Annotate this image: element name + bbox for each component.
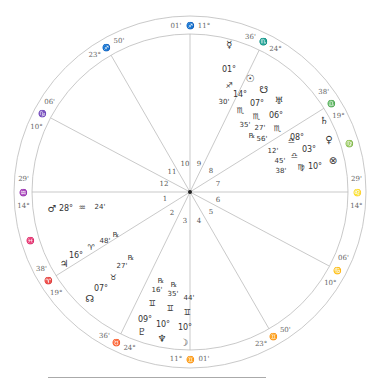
svg-text:♐: ♐ xyxy=(102,43,111,52)
svg-text:11°: 11° xyxy=(198,22,210,30)
uranus-icon: ♅ xyxy=(275,95,284,106)
south-node-icon: ☋ xyxy=(260,84,269,95)
planet-minute: 44' xyxy=(184,294,195,302)
svg-text:♒: ♒ xyxy=(19,188,28,197)
jupiter-icon: ♃ xyxy=(60,258,69,269)
cusp-label-house-6: 10°♋06' xyxy=(324,254,349,287)
retrograde-icon: ℞ xyxy=(158,277,164,285)
planet-minute: 35' xyxy=(240,121,251,129)
planet-sign: ♏ xyxy=(252,112,260,121)
house-number-7: 7 xyxy=(216,180,220,188)
planet-sign: ♎ xyxy=(287,136,294,145)
svg-text:♑: ♑ xyxy=(38,109,47,118)
svg-text:24°: 24° xyxy=(123,344,135,352)
svg-text:50': 50' xyxy=(113,37,124,45)
svg-text:06': 06' xyxy=(338,254,349,262)
planet-minute: 45' xyxy=(275,157,286,165)
svg-text:29': 29' xyxy=(351,175,362,183)
svg-text:♏: ♏ xyxy=(259,37,268,46)
retrograde-icon: ℞ xyxy=(113,231,119,239)
svg-text:19°: 19° xyxy=(50,289,62,297)
intercepted-sign: ♓ xyxy=(26,236,35,245)
cusp-label-house-11: 23°♐50' xyxy=(88,37,124,59)
svg-text:19°: 19° xyxy=(332,112,344,120)
planet-sign: ♎ xyxy=(290,151,297,160)
house-number-10: 10 xyxy=(181,160,190,168)
retrograde-icon: ℞ xyxy=(249,132,255,140)
svg-text:36': 36' xyxy=(99,332,110,340)
cusp-label-house-9: 24°♏36' xyxy=(245,33,282,53)
svg-text:23°: 23° xyxy=(88,51,100,59)
svg-text:10°: 10° xyxy=(324,279,336,287)
svg-text:24°: 24° xyxy=(269,45,281,53)
planet-minute: 30' xyxy=(219,98,230,106)
cusp-label-house-3: 24°♉36' xyxy=(99,332,136,352)
planet-sign: ♉ xyxy=(109,273,116,282)
svg-text:23°: 23° xyxy=(255,340,267,348)
planet-minute: 16' xyxy=(152,286,163,294)
house-number-2: 2 xyxy=(170,209,174,217)
retrograde-icon: ℞ xyxy=(128,254,134,262)
svg-text:♈: ♈ xyxy=(44,276,53,285)
planet-minute: 48' xyxy=(100,237,111,245)
cusp-line-house-6 xyxy=(190,192,330,266)
south-node-placement: ☋07°♏27' xyxy=(250,84,269,132)
neptune-icon: ♆ xyxy=(158,333,167,344)
house-number-6: 6 xyxy=(216,196,221,204)
house-number-4: 4 xyxy=(197,217,202,225)
planet-sign: ♊ xyxy=(166,304,173,313)
saturn-placement: ♄08°♎12' xyxy=(268,115,329,155)
cusp-line-house-11 xyxy=(111,55,190,192)
sun-icon: ☉ xyxy=(246,73,255,84)
natal-chart-wheel: 11°♐01'23°♐50'10°♑06'14°♒29'19°♈38'24°♉3… xyxy=(0,0,377,381)
planet-degree: 10° xyxy=(308,162,322,171)
part-of-fortune-icon: ⊗ xyxy=(329,155,337,166)
cusp-line-house-12 xyxy=(50,118,190,192)
planet-degree: 16° xyxy=(69,251,83,260)
svg-text:14°: 14° xyxy=(350,202,362,210)
mars-icon: ♂ xyxy=(48,203,57,214)
house-number-9: 9 xyxy=(197,160,201,168)
planet-sign: ♊ xyxy=(148,299,155,308)
svg-text:06': 06' xyxy=(44,98,55,106)
cusp-label-house-7: 14°♌29' xyxy=(350,175,362,211)
house-number-12: 12 xyxy=(160,180,169,188)
mercury-icon: ☿ xyxy=(226,39,232,50)
cusp-label-house-2: 19°♈38' xyxy=(36,265,62,297)
planet-minute: 24' xyxy=(95,203,106,211)
planet-minute: 12' xyxy=(268,147,279,155)
cusp-label-house-5: 23°♊50' xyxy=(255,326,291,348)
venus-icon: ♀ xyxy=(325,134,332,145)
planet-degree: 10° xyxy=(156,320,170,329)
svg-text:♊: ♊ xyxy=(269,332,278,341)
svg-text:38': 38' xyxy=(318,88,329,96)
planet-sign: ♊ xyxy=(183,308,190,317)
house-number-3: 3 xyxy=(183,217,187,225)
planet-degree: 07° xyxy=(250,99,264,108)
svg-text:♌: ♌ xyxy=(353,188,362,197)
svg-text:♎: ♎ xyxy=(327,99,336,108)
house-number-8: 8 xyxy=(209,167,213,175)
svg-text:10°: 10° xyxy=(30,123,42,131)
svg-text:01': 01' xyxy=(171,22,182,30)
svg-text:♊: ♊ xyxy=(186,355,195,364)
cusp-label-house-10: 11°♐01' xyxy=(171,21,211,31)
cusp-label-house-4: 11°♊01' xyxy=(170,355,210,364)
house-number-5: 5 xyxy=(209,208,213,216)
svg-text:36': 36' xyxy=(245,33,256,41)
planet-sign: ♏ xyxy=(273,124,281,133)
chart-center-dot xyxy=(188,190,192,194)
saturn-icon: ♄ xyxy=(320,115,329,126)
planet-minute: 27' xyxy=(117,262,128,270)
house-number-1: 1 xyxy=(163,195,167,203)
svg-text:01': 01' xyxy=(199,355,210,363)
mars-placement: ♂28°♒24' xyxy=(48,203,106,214)
planet-degree: 06° xyxy=(269,111,283,120)
retrograde-icon: ℞ xyxy=(171,281,177,289)
planet-degree: 01° xyxy=(222,65,236,74)
svg-text:11°: 11° xyxy=(170,355,182,363)
svg-text:♉: ♉ xyxy=(112,338,121,347)
planet-sign: ♐ xyxy=(225,81,232,90)
planet-degree: 14° xyxy=(233,90,247,99)
pluto-icon: ♇ xyxy=(138,326,147,337)
